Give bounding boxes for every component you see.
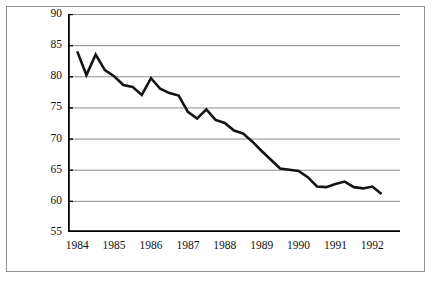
y-axis-tick-labels: 5560657075808590 (22, 14, 62, 232)
y-axis-tick-label: 75 (28, 101, 62, 112)
data-series-line (77, 51, 381, 194)
x-axis-tick-label: 1992 (350, 238, 394, 252)
y-axis-label: PERCENT OF LONG-DISTANCE TELEPHONE CALLI… (0, 8, 10, 226)
x-axis-tick-labels: 198419851986198719881989199019911992 (68, 238, 400, 254)
x-axis-major-ticks (68, 15, 373, 233)
y-axis-tick-label: 70 (28, 133, 62, 144)
y-axis-tick-label: 65 (28, 164, 62, 175)
y-axis-tick-label: 60 (28, 195, 62, 206)
y-axis-tick-label: 80 (28, 70, 62, 81)
y-axis-tick-label: 55 (28, 226, 62, 237)
chart-figure: PERCENT OF LONG-DISTANCE TELEPHONE CALLI… (0, 0, 436, 285)
y-axis-tick-label: 90 (28, 8, 62, 19)
plot-area (68, 14, 400, 232)
line-chart-svg (68, 14, 400, 232)
gridlines (68, 15, 400, 202)
y-axis-tick-label: 85 (28, 39, 62, 50)
